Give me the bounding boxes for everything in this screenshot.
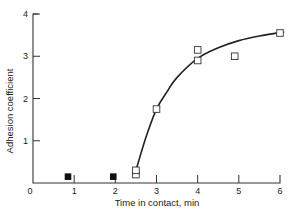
fit-curve-path [136, 32, 284, 170]
ticks: 01234561234 [23, 9, 283, 196]
y-tick-label: 4 [23, 9, 28, 19]
open-square-marker [194, 57, 201, 64]
y-axis-label: Adhesion coefficient [4, 68, 15, 153]
adhesion-chart: 01234561234 Time in contact, min Adhesio… [0, 0, 294, 213]
x-tick-label: 5 [236, 186, 241, 196]
fit-curve [136, 32, 284, 170]
x-tick-label: 2 [113, 186, 118, 196]
open-square-marker [133, 167, 140, 174]
x-tick-label: 3 [154, 186, 159, 196]
data-points [65, 30, 284, 180]
filled-square-marker [65, 173, 72, 180]
open-square-marker [194, 47, 201, 54]
y-tick-label: 2 [23, 94, 28, 104]
x-tick-label: 0 [27, 186, 32, 196]
y-tick-label: 1 [23, 136, 28, 146]
x-tick-label: 6 [277, 186, 282, 196]
y-tick-label: 3 [23, 51, 28, 61]
open-square-marker [231, 53, 238, 60]
x-tick-label: 1 [72, 186, 77, 196]
open-square-marker [153, 106, 160, 113]
filled-square-marker [110, 173, 117, 180]
x-axis-label: Time in contact, min [115, 197, 200, 208]
x-tick-label: 4 [195, 186, 200, 196]
open-square-marker [277, 30, 284, 37]
